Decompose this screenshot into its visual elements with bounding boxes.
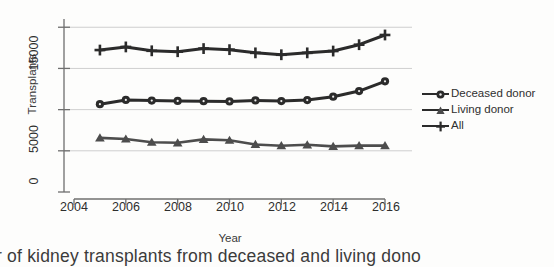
y-axis xyxy=(58,19,70,192)
legend-item-deceased-donor: Deceased donor xyxy=(421,86,553,101)
legend-item-living-donor: Living donor xyxy=(421,102,553,117)
chart-legend: Deceased donor Living donor All xyxy=(421,86,553,134)
figure-caption: r of kidney transplants from deceased an… xyxy=(0,249,554,267)
chart-figure: Transplants Year 0 5000 15000 2004 2006 … xyxy=(0,0,554,267)
series-deceased-donor xyxy=(96,77,389,108)
legend-plus-marker-icon xyxy=(421,119,451,133)
series-living-donor xyxy=(95,133,390,150)
page-bleed-through xyxy=(0,228,554,244)
x-axis xyxy=(74,199,385,205)
legend-circle-marker-icon xyxy=(421,87,451,101)
legend-item-all: All xyxy=(421,118,553,133)
legend-triangle-marker-icon xyxy=(421,103,451,117)
legend-label-living-donor: Living donor xyxy=(451,103,514,116)
legend-label-deceased-donor: Deceased donor xyxy=(451,87,535,100)
legend-label-all: All xyxy=(451,119,464,132)
series-all xyxy=(95,30,391,61)
